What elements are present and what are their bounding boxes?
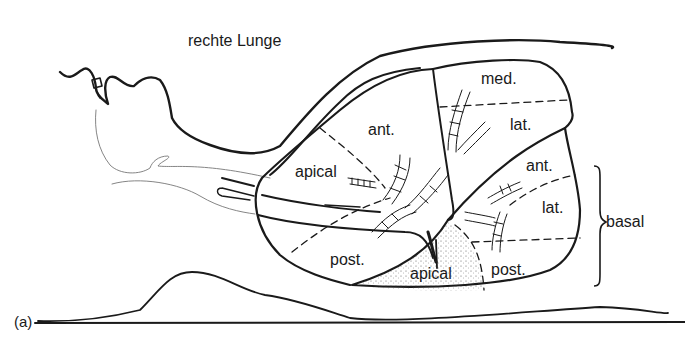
label-basal-ant: ant. xyxy=(526,158,553,174)
panel-label: (a) xyxy=(14,314,32,329)
inflow-arrow-line xyxy=(222,178,254,186)
basal-brace xyxy=(594,166,606,286)
label-upper-post: post. xyxy=(330,252,365,268)
label-middle-med: med. xyxy=(481,71,517,87)
label-basal-post: post. xyxy=(491,262,526,278)
abdomen-contour xyxy=(38,272,668,321)
label-upper-apical: apical xyxy=(295,164,337,180)
border-basal-lat-post xyxy=(472,238,580,242)
diagram-title: rechte Lunge xyxy=(188,33,281,49)
border-med-lat xyxy=(440,100,568,107)
faint-neck-contour xyxy=(96,110,270,178)
label-lower-apical: apical xyxy=(410,266,452,282)
bronchus-upper xyxy=(262,195,380,212)
inflow-arrow-line-2 xyxy=(218,188,255,200)
horizontal-fissure xyxy=(433,69,453,220)
body-outline xyxy=(60,40,613,153)
label-basal-group: basal xyxy=(606,214,644,230)
inner-back-line xyxy=(270,68,420,175)
lung-diagram-svg xyxy=(0,0,685,355)
label-basal-lat: lat. xyxy=(542,200,563,216)
label-middle-lat: lat. xyxy=(510,117,531,133)
diagram-canvas: rechte Lunge (a) apical ant. post. med. … xyxy=(0,0,685,355)
label-upper-ant: ant. xyxy=(368,122,395,138)
baseline xyxy=(35,322,685,323)
